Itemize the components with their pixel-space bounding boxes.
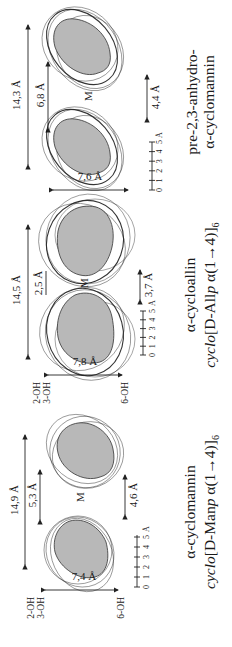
height-label: 7,6 Å	[78, 170, 103, 182]
svg-text:Å: Å	[155, 132, 164, 138]
svg-text:3: 3	[155, 159, 164, 163]
svg-text:Å: Å	[148, 300, 157, 306]
rim-2oh-label: 2-OH	[26, 597, 36, 619]
scale-bar: 0 1 2 3 4 5 Å	[149, 132, 164, 192]
svg-text:4: 4	[142, 545, 151, 549]
svg-text:0: 0	[148, 353, 157, 357]
svg-text:4: 4	[155, 150, 164, 154]
height-label: 7,4 Å	[72, 570, 97, 582]
scale-bar: 0 1 2 3 4 5 Å	[134, 526, 151, 589]
svg-text:5: 5	[155, 140, 164, 144]
rim-6oh-label: 6-OH	[116, 597, 126, 619]
cavity-top-label: 6,8 Å	[34, 83, 46, 108]
svg-text:Å: Å	[142, 526, 151, 532]
height-label: 7,8 Å	[73, 355, 98, 367]
cavity-bottom-label: 4,6 Å	[127, 483, 139, 508]
rim-2oh-label: 2-OH	[32, 382, 42, 404]
svg-text:3: 3	[142, 555, 151, 559]
svg-text:4: 4	[148, 318, 157, 322]
svg-text:5: 5	[148, 309, 157, 313]
center-label: M	[82, 91, 94, 101]
cavity-top-label: 2,5 Å	[32, 271, 44, 296]
glucosyl-ring-left	[30, 502, 128, 602]
svg-text:2: 2	[142, 565, 151, 569]
svg-text:1: 1	[142, 575, 151, 579]
panel-alpha-cyclomannin: 14,9 Å 5,3 Å M 4,6 Å 7,4 Å 2-OH 3-OH 6-O…	[8, 400, 221, 619]
svg-text:3: 3	[148, 327, 157, 331]
rim-6oh-label: 6-OH	[120, 382, 130, 404]
width-label: 14,9 Å	[8, 485, 20, 515]
svg-text:1: 1	[148, 344, 157, 348]
scale-bar: 0 1 2 3 4 5 Å	[140, 300, 157, 357]
rim-3oh-label: 3-OH	[42, 382, 52, 404]
glucosyl-ring-left	[27, 91, 137, 204]
panel-title-line-2: α-cyclomannin	[200, 55, 217, 149]
panel-pre-anhydro-alpha-cyclomannin: 14,3 Å 6,8 Å M 4,4 Å 7,6 Å	[10, 0, 217, 205]
svg-text:2: 2	[148, 335, 157, 339]
panel-formula: cyclo[D-Manp α(1→4)]6	[201, 435, 221, 589]
svg-text:0: 0	[142, 585, 151, 589]
panel-formula: cyclo[D-Allp α(1→4)]6	[201, 222, 221, 367]
center-label: M	[78, 278, 90, 288]
glucosyl-ring-right	[32, 400, 133, 501]
panel-title: α-cyclomannin	[181, 465, 198, 559]
width-label: 14,3 Å	[10, 80, 22, 110]
panel-title-line-1: pre-2,3-anhydro-	[183, 49, 200, 154]
cyclooligosaccharide-cross-section-figure: 14,9 Å 5,3 Å M 4,6 Å 7,4 Å 2-OH 3-OH 6-O…	[0, 0, 232, 647]
panel-alpha-cycloallin: 14,5 Å 2,5 Å M 3,7 Å 7,8 Å 2-OH 3-OH 6-O…	[10, 186, 221, 403]
panel-title: α-cycloallin	[181, 258, 198, 333]
width-label: 14,5 Å	[10, 275, 22, 305]
svg-text:2: 2	[155, 169, 164, 173]
rim-3oh-label: 3-OH	[36, 597, 46, 619]
cavity-bottom-label: 4,4 Å	[149, 85, 161, 110]
svg-text:0: 0	[155, 188, 164, 192]
center-label: M	[74, 492, 86, 502]
cavity-top-label: 5,3 Å	[26, 483, 38, 508]
svg-text:5: 5	[142, 535, 151, 539]
cavity-bottom-label: 3,7 Å	[142, 273, 154, 298]
svg-text:1: 1	[155, 178, 164, 182]
